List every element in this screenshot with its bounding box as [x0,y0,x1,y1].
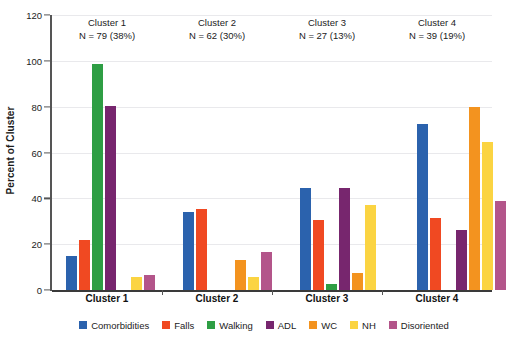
legend-swatch-icon [266,321,274,329]
bar[interactable] [105,106,116,290]
legend-label: WC [321,320,337,331]
legend-swatch-icon [389,321,397,329]
bar[interactable] [144,275,155,290]
x-axis-labels: Cluster 1Cluster 2Cluster 3Cluster 4 [52,293,492,309]
legend-swatch-icon [162,321,170,329]
bar[interactable] [339,188,350,290]
legend-label: ADL [278,320,296,331]
bar[interactable] [196,209,207,290]
bar[interactable] [430,218,441,290]
bar[interactable] [66,256,77,290]
bar-group [403,15,520,290]
bar[interactable] [352,273,363,290]
bar-group [52,15,169,290]
chart-root: Percent of Cluster 020406080100120 Clust… [0,0,528,338]
legend-swatch-icon [207,321,215,329]
legend-label: Disoriented [401,320,449,331]
bar[interactable] [482,142,493,290]
legend-label: Comorbidities [91,320,149,331]
bar[interactable] [248,277,259,290]
legend-item[interactable]: Disoriented [389,320,449,331]
legend-label: NH [362,320,376,331]
bar-group [169,15,286,290]
y-tick-label: 120 [26,10,42,21]
bar[interactable] [313,220,324,290]
legend-item[interactable]: NH [350,320,376,331]
bar[interactable] [300,188,311,290]
y-tick-label: 0 [37,285,42,296]
legend-item[interactable]: WC [309,320,337,331]
bar[interactable] [235,260,246,290]
bar[interactable] [456,230,467,290]
legend-swatch-icon [79,321,87,329]
legend-label: Falls [174,320,194,331]
bar[interactable] [417,124,428,290]
y-tick-label: 80 [31,101,42,112]
bar[interactable] [79,240,90,290]
bar-group [286,15,403,290]
bar[interactable] [131,277,142,290]
x-axis-label: Cluster 1 [52,293,162,309]
y-axis-ticks: 020406080100120 [0,0,52,338]
legend-swatch-icon [350,321,358,329]
legend-swatch-icon [309,321,317,329]
y-tick-label: 60 [31,147,42,158]
x-axis-label: Cluster 4 [382,293,492,309]
y-tick-label: 40 [31,193,42,204]
bar[interactable] [261,252,272,290]
x-axis-label: Cluster 3 [272,293,382,309]
legend-item[interactable]: ADL [266,320,296,331]
bar[interactable] [183,212,194,290]
bar-groups [52,15,492,290]
legend-label: Walking [219,320,252,331]
x-axis-label: Cluster 2 [162,293,272,309]
legend-item[interactable]: Walking [207,320,252,331]
legend-item[interactable]: Falls [162,320,194,331]
y-tick-label: 100 [26,55,42,66]
bar[interactable] [469,107,480,290]
bar[interactable] [495,201,506,290]
y-tick-label: 20 [31,239,42,250]
bar[interactable] [365,205,376,290]
legend-item[interactable]: Comorbidities [79,320,149,331]
chart-legend: ComorbiditiesFallsWalkingADLWCNHDisorien… [0,316,528,334]
plot-area [52,15,492,290]
bar[interactable] [92,64,103,290]
